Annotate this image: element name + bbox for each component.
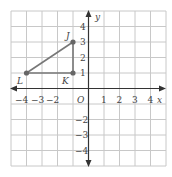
- x-axis-label: x: [157, 95, 162, 105]
- y-tick-label: −2: [75, 115, 88, 125]
- x-tick-label: 4: [148, 95, 154, 105]
- point-j-label: J: [64, 31, 71, 41]
- axes: [10, 10, 166, 167]
- y-tick-label: −3: [75, 130, 89, 140]
- x-tick-label: −3: [31, 95, 45, 105]
- origin-label: O: [77, 95, 85, 105]
- x-tick-label: 2: [117, 95, 123, 105]
- point-k: [70, 70, 75, 75]
- y-tick-label: 1: [80, 68, 86, 78]
- x-axis-arrow-right: [159, 86, 166, 92]
- y-tick-label: 2: [80, 53, 86, 63]
- point-k-label: K: [61, 76, 70, 86]
- y-tick-label: 4: [80, 22, 86, 32]
- y-tick-label: 3: [80, 37, 86, 47]
- coordinate-plane: y x O −4 −3 −2 1 2 3 4 4 3 2 1 −2 −3 −4 …: [0, 0, 172, 177]
- point-l-label: L: [16, 76, 23, 86]
- point-j: [70, 39, 75, 44]
- point-l: [24, 70, 29, 75]
- x-tick-label: −2: [46, 95, 59, 105]
- x-tick-label: 1: [101, 95, 107, 105]
- y-tick-label: −4: [75, 146, 89, 156]
- x-tick-label: 3: [132, 95, 138, 105]
- y-axis-label: y: [94, 12, 101, 22]
- x-tick-label: −4: [15, 95, 29, 105]
